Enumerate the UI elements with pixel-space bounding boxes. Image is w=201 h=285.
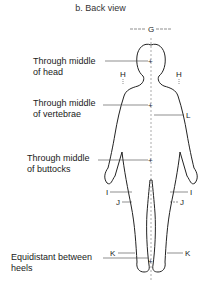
body-outline-diagram: G + H H + L + I J I J K K +	[0, 0, 201, 285]
label-h-right: H	[176, 70, 182, 79]
cross-head: +	[148, 57, 153, 66]
label-j-left: J	[116, 198, 120, 207]
label-i-left: I	[106, 188, 108, 197]
label-j-right: J	[180, 198, 184, 207]
cross-vertebrae: +	[148, 101, 153, 110]
label-l: L	[186, 111, 191, 120]
label-k-right: K	[185, 249, 191, 258]
label-h-left: H	[120, 70, 126, 79]
label-i-right: I	[190, 188, 192, 197]
label-k-left: K	[110, 249, 116, 258]
cross-heels: +	[148, 257, 153, 266]
cross-buttocks: +	[148, 156, 153, 165]
label-g: G	[148, 25, 154, 34]
